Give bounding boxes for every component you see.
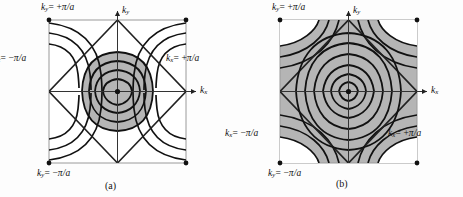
corner-dot-top-left [278, 18, 283, 23]
x-axis-arrowhead [191, 89, 196, 94]
panel-b-plot [231, 0, 463, 197]
label-kx-negative: kx= −π/a [0, 53, 26, 63]
x-axis-arrowhead [422, 89, 427, 94]
axis-label-ky: ky [122, 5, 129, 15]
origin-point [346, 89, 351, 94]
panel-a-caption: (a) [105, 180, 116, 191]
corner-dot-top-right [415, 18, 420, 23]
label-ky-negative: ky= −π/a [268, 168, 301, 178]
figure-container: ky= +π/a ky= −π/a kx= −π/a kx= +π/a ky k… [0, 0, 463, 197]
label-kx-negative: kx= −π/a [225, 128, 258, 138]
corner-dot-bottom-right [184, 161, 189, 166]
label-kx-positive: kx= +π/a [166, 53, 199, 63]
axis-label-kx: kx [200, 85, 207, 95]
label-ky-negative: ky= −π/a [37, 168, 70, 178]
corner-dot-top-left [47, 18, 52, 23]
panel-a-plot [0, 0, 232, 197]
corner-dot-bottom-left [47, 161, 52, 166]
y-axis-arrowhead [346, 11, 351, 16]
corner-dot-bottom-right [415, 161, 420, 166]
label-ky-positive: ky= +π/a [41, 2, 74, 12]
axis-label-ky: ky [353, 5, 360, 15]
corner-dot-top-right [184, 18, 189, 23]
panel-b: ky= +π/a ky= −π/a kx= −π/a kx= +π/a ky k… [231, 0, 463, 197]
label-kx-positive: kx= +π/a [388, 128, 421, 138]
axis-label-kx: kx [431, 85, 438, 95]
origin-point [115, 89, 120, 94]
panel-a: ky= +π/a ky= −π/a kx= −π/a kx= +π/a ky k… [0, 0, 232, 197]
corner-dot-bottom-left [278, 161, 283, 166]
label-ky-positive: ky= +π/a [272, 2, 305, 12]
y-axis-arrowhead [115, 11, 120, 16]
panel-b-caption: (b) [336, 178, 348, 189]
